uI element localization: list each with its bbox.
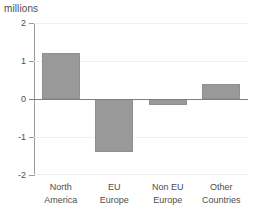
plot-area — [34, 23, 248, 175]
y-axis-label-1: 1 — [2, 57, 26, 66]
bar-north-america[interactable] — [42, 53, 80, 99]
gridline-minus-1 — [34, 137, 248, 138]
x-label-line: Non EU — [141, 181, 195, 194]
gridline-2 — [34, 23, 248, 24]
x-axis-category-labels: NorthAmericaEUEuropeNon EUEuropeOtherCou… — [34, 181, 248, 215]
x-label-line: Other — [195, 181, 249, 194]
x-label-non-eu-europe: Non EUEurope — [141, 181, 195, 215]
y-axis-label-minus-2: -2 — [2, 171, 26, 180]
y-axis-label-0: 0 — [2, 95, 26, 104]
zero-baseline — [29, 99, 248, 100]
x-label-line: EU — [88, 181, 142, 194]
x-label-line: Europe — [88, 194, 142, 207]
bar-chart: millions 2 1 0 -1 -2 NorthAmericaEUEurop… — [0, 0, 257, 220]
x-label-line: Countries — [195, 194, 249, 207]
x-label-eu-europe: EUEurope — [88, 181, 142, 215]
y-axis-label-minus-1: -1 — [2, 133, 26, 142]
x-label-north-america: NorthAmerica — [34, 181, 88, 215]
x-label-line: America — [34, 194, 88, 207]
chart-title: millions — [4, 3, 38, 15]
x-label-line: Europe — [141, 194, 195, 207]
x-label-line: North — [34, 181, 88, 194]
bar-eu-europe[interactable] — [95, 99, 133, 152]
y-axis-label-2: 2 — [2, 19, 26, 28]
gridline-minus-2 — [34, 174, 248, 175]
x-label-other-countries: OtherCountries — [195, 181, 249, 215]
bar-other-countries[interactable] — [202, 84, 240, 99]
y-tick-minus-2 — [29, 175, 34, 176]
